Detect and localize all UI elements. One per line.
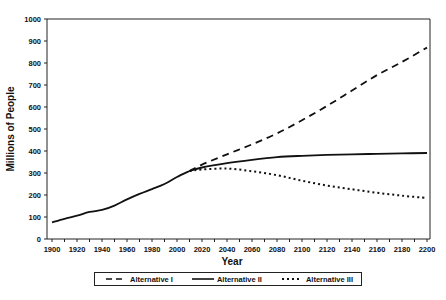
chart-legend: Alternative I Alternative II Alternative…	[94, 272, 362, 286]
y-tick-label: 0	[37, 235, 41, 244]
x-tick-label: 2080	[269, 245, 286, 254]
y-tick-label: 100	[28, 213, 41, 222]
series-line-alternative-3	[190, 169, 428, 199]
population-projection-chart: 01002003004005006007008009001000 1900192…	[0, 0, 446, 300]
legend-label: Alternative III	[306, 275, 353, 284]
x-tick-label: 1940	[94, 245, 111, 254]
x-tick-label: 1900	[44, 245, 61, 254]
series-line-alternative-1	[190, 48, 428, 171]
legend-label: Alternative II	[217, 275, 262, 284]
y-tick-label: 200	[28, 191, 41, 200]
x-tick-label: 1920	[69, 245, 86, 254]
y-axis-title: Millions of People	[5, 86, 16, 171]
x-tick-label: 2140	[344, 245, 361, 254]
x-tick-label: 2200	[419, 245, 436, 254]
solid-line-icon	[192, 276, 214, 282]
y-axis-ticks: 01002003004005006007008009001000	[24, 15, 47, 244]
x-tick-label: 2120	[319, 245, 336, 254]
y-tick-label: 700	[28, 81, 41, 90]
dashed-line-icon	[105, 276, 127, 282]
x-tick-label: 1980	[144, 245, 161, 254]
x-tick-label: 2000	[169, 245, 186, 254]
x-axis-title: Year	[221, 256, 242, 267]
legend-item-alternative-2: Alternative II	[192, 275, 262, 284]
y-tick-label: 300	[28, 169, 41, 178]
dotted-line-icon	[281, 276, 303, 282]
x-tick-label: 1960	[119, 245, 136, 254]
x-axis-ticks: 1900192019401960198020002020204020602080…	[44, 239, 436, 254]
x-tick-label: 2020	[194, 245, 211, 254]
x-tick-label: 2040	[219, 245, 236, 254]
y-tick-label: 400	[28, 147, 41, 156]
y-tick-label: 900	[28, 37, 41, 46]
y-tick-label: 600	[28, 103, 41, 112]
legend-label: Alternative I	[130, 275, 173, 284]
y-tick-label: 1000	[24, 15, 41, 24]
y-tick-label: 500	[28, 125, 41, 134]
x-tick-label: 2180	[394, 245, 411, 254]
legend-item-alternative-1: Alternative I	[105, 275, 173, 284]
plot-lines	[52, 48, 427, 223]
legend-item-alternative-3: Alternative III	[281, 275, 353, 284]
x-tick-label: 2100	[294, 245, 311, 254]
x-tick-label: 2160	[369, 245, 386, 254]
y-tick-label: 800	[28, 59, 41, 68]
historical-line	[52, 171, 190, 222]
x-tick-label: 2060	[244, 245, 261, 254]
